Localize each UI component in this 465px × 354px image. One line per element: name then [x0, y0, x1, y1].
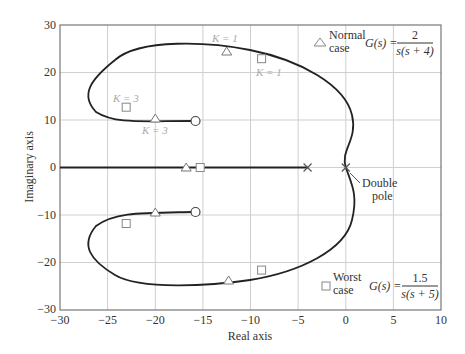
svg-text:−5: −5: [292, 313, 305, 327]
legend-normal: Normal case G(s) = 2 s(s + 4): [314, 28, 434, 58]
svg-text:−10: −10: [241, 313, 260, 327]
svg-text:−25: −25: [98, 313, 117, 327]
svg-text:10: 10: [44, 113, 56, 127]
x-tick-labels: −30 −25 −20 −15 −10 −5 0 5 10: [51, 313, 447, 327]
k-label-upper-square: K = 1: [255, 66, 282, 78]
svg-text:30: 30: [44, 18, 56, 32]
svg-text:s(s + 4): s(s + 4): [396, 44, 433, 58]
svg-text:case: case: [333, 283, 354, 297]
k-label-k3-square: K = 3: [112, 92, 139, 104]
svg-text:Worst: Worst: [333, 270, 362, 284]
svg-text:s(s + 5): s(s + 5): [401, 287, 438, 301]
svg-text:−30: −30: [51, 313, 70, 327]
k-label-upper-triangle: K = 1: [211, 32, 238, 44]
svg-text:20: 20: [44, 65, 56, 79]
svg-text:2: 2: [412, 28, 418, 42]
double-pole-label-1: Double: [362, 176, 397, 190]
svg-text:G(s) =: G(s) =: [365, 36, 397, 50]
y-tick-labels: 30 20 10 0 −10 −20 −30: [37, 18, 56, 316]
normal-case-triangles: [150, 47, 233, 284]
x-axis-label: Real axis: [228, 329, 273, 343]
root-locus-chart: K = 1 K = 1 K = 3 K = 3 Double pole Norm…: [0, 0, 465, 354]
svg-text:5: 5: [390, 313, 396, 327]
double-pole-label-2: pole: [372, 189, 393, 203]
svg-text:0: 0: [343, 313, 349, 327]
legend-worst: Worst case G(s) = 1.5 s(s + 5): [322, 270, 439, 301]
svg-text:1.5: 1.5: [413, 271, 428, 285]
k-label-k3-triangle: K = 3: [141, 124, 168, 136]
svg-text:G(s) =: G(s) =: [369, 279, 401, 293]
svg-text:−20: −20: [146, 313, 165, 327]
svg-text:−10: −10: [37, 208, 56, 222]
svg-text:−15: −15: [194, 313, 213, 327]
svg-text:10: 10: [435, 313, 447, 327]
svg-text:Normal: Normal: [329, 28, 366, 42]
svg-text:0: 0: [50, 160, 56, 174]
svg-text:−20: −20: [37, 255, 56, 269]
y-axis-label: Imaginary axis: [22, 131, 36, 203]
worst-case-squares: [122, 55, 265, 274]
svg-text:case: case: [329, 41, 350, 55]
